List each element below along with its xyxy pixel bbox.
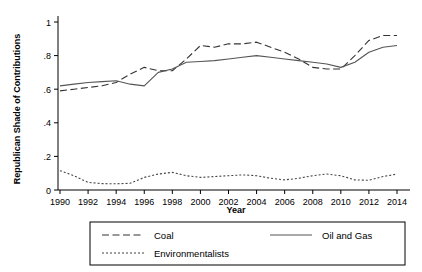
legend-label-environmentalists: Environmentalists — [154, 248, 229, 259]
chart-figure: Republican Shade of Contributions 0.2.4.… — [0, 0, 422, 272]
svg-text:.4: .4 — [43, 118, 51, 128]
x-axis-title-wrap: Year — [0, 205, 422, 215]
chart-legend: CoalOil and GasEnvironmentalists — [90, 222, 405, 265]
chart-axes — [54, 16, 410, 194]
data-series-layer — [60, 35, 397, 183]
svg-text:.2: .2 — [43, 152, 51, 162]
svg-text:1: 1 — [46, 18, 51, 28]
line-chart-plot: 0.2.4.6.81 19901992199419961998200020022… — [0, 0, 422, 272]
series-line-oil-and-gas — [60, 46, 397, 86]
y-axis-title: Republican Shade of Contributions — [12, 14, 22, 204]
legend-box — [90, 222, 405, 265]
x-axis-title: Year — [226, 205, 245, 215]
y-tick-labels: 0.2.4.6.81 — [43, 18, 51, 196]
svg-text:.6: .6 — [43, 85, 51, 95]
legend-label-oil-and-gas: Oil and Gas — [322, 230, 372, 241]
legend-label-coal: Coal — [154, 230, 174, 241]
series-line-environmentalists — [60, 171, 397, 184]
svg-text:.8: .8 — [43, 51, 51, 61]
svg-text:0: 0 — [46, 186, 51, 196]
series-line-coal — [60, 35, 397, 90]
